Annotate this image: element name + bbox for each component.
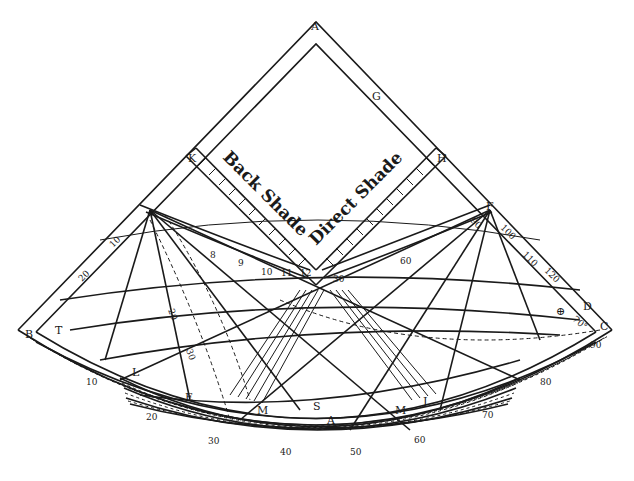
- outer-arc-bands: [18, 330, 612, 430]
- arc-label-9: 9: [238, 258, 244, 268]
- bottom-scale-70: 70: [482, 410, 494, 420]
- label-a-bottom: A: [326, 414, 336, 427]
- bottom-scale-50: 50: [350, 447, 362, 457]
- label-f: F: [486, 200, 494, 213]
- label-e: E: [185, 391, 193, 404]
- label-s: S: [313, 400, 321, 413]
- angle-70-label: 70°: [571, 314, 590, 332]
- label-j: J: [422, 395, 427, 408]
- label-20-inner: 20: [166, 307, 179, 321]
- back-shade-title: Back Shade: [219, 147, 312, 240]
- label-h: H: [437, 152, 447, 165]
- bottom-scale-10: 10: [86, 377, 98, 387]
- arc-label-12: 12: [300, 268, 311, 278]
- label-a-top: A: [310, 20, 320, 33]
- arc-label-60: 60: [400, 256, 412, 266]
- bottom-scale-20: 20: [146, 412, 158, 422]
- label-d: D: [583, 300, 592, 313]
- quadrant-diagram: Back Shade Direct Shade A G H K F D C B …: [0, 0, 634, 481]
- right-scale-120: 120: [543, 265, 562, 284]
- label-m-right: M: [395, 404, 406, 417]
- left-scale-20: 20: [76, 268, 91, 283]
- arc-label-30: 30: [333, 274, 345, 284]
- hour-line-grid: [60, 210, 600, 430]
- label-c: C: [600, 320, 608, 333]
- bottom-scale-60: 60: [414, 435, 426, 445]
- label-30-inner: 30: [184, 347, 197, 361]
- label-b: B: [25, 328, 33, 341]
- labels: Back Shade Direct Shade A G H K F D C B …: [25, 20, 608, 457]
- label-k: K: [188, 152, 197, 165]
- label-g: G: [372, 90, 381, 103]
- label-l: L: [132, 366, 140, 379]
- bottom-scale-90: 90: [590, 340, 602, 350]
- label-t: T: [55, 324, 63, 337]
- arc-label-11: 11: [281, 268, 292, 278]
- bottom-scale-30: 30: [208, 436, 220, 446]
- direct-shade-title: Direct Shade: [305, 147, 407, 249]
- arc-label-10: 10: [261, 267, 273, 277]
- arc-label-8: 8: [210, 250, 216, 260]
- bottom-scale-80: 80: [540, 377, 552, 387]
- sun-icon: ⊕: [556, 305, 565, 318]
- bottom-scale-40: 40: [280, 447, 292, 457]
- label-m-left: M: [257, 404, 268, 417]
- band-ticks: [27, 336, 608, 430]
